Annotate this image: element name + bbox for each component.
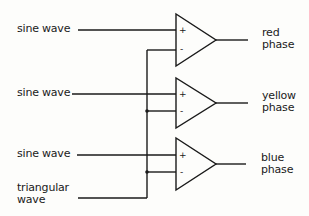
plus-sign-1: + — [179, 24, 186, 36]
input-label-triangular: triangular wave — [17, 182, 69, 206]
plus-sign-2: + — [179, 88, 186, 100]
junction-dot-1 — [145, 109, 149, 113]
input-label-sine-1: sine wave — [17, 23, 70, 35]
red-line2: phase — [262, 39, 294, 51]
output-label-yellow: yellow phase — [262, 90, 296, 114]
yellow-line2: phase — [262, 102, 296, 114]
output-label-red: red phase — [262, 27, 294, 51]
comparator-2-symbol — [176, 78, 216, 128]
plus-sign-3: + — [179, 149, 186, 161]
input-label-sine-2: sine wave — [17, 87, 70, 99]
junction-dot-2 — [145, 170, 149, 174]
triangular-line2: wave — [17, 194, 69, 206]
minus-sign-2: - — [180, 105, 183, 117]
comparator-3-symbol — [176, 138, 216, 190]
blue-line2: phase — [261, 164, 293, 176]
minus-sign-3: - — [180, 166, 183, 178]
minus-sign-1: - — [180, 43, 183, 55]
comparator-1-symbol — [176, 14, 216, 66]
output-label-blue: blue phase — [261, 152, 293, 176]
input-label-sine-3: sine wave — [17, 148, 70, 160]
